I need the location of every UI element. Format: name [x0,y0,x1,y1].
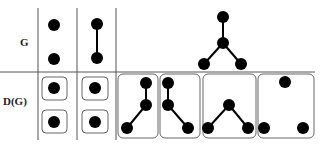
dg-nodes [48,82,101,128]
diagram: G D(G) [0,0,331,147]
dg-boxes [42,74,314,138]
diagram-graphic [0,0,331,147]
g-col2 [91,18,103,64]
g-col3 [198,11,247,70]
g-col1 [48,19,60,65]
